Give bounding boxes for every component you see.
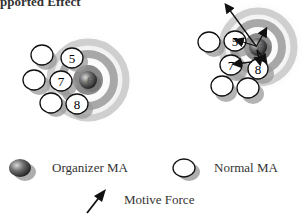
motive-force-legend-icon (87, 189, 106, 213)
svg-text:7: 7 (228, 58, 235, 73)
normal-legend-icon (173, 159, 200, 181)
agent-5: 5 (61, 48, 83, 68)
svg-text:7: 7 (58, 74, 65, 89)
normal-legend-label: Normal MA (214, 160, 278, 176)
agent-7: 7 (50, 71, 72, 91)
agent-blank-3 (237, 78, 259, 98)
agent-blank-2 (23, 70, 45, 90)
svg-text:8: 8 (255, 62, 262, 77)
agent-7: 7 (220, 55, 242, 75)
svg-text:5: 5 (69, 51, 76, 66)
organizer-legend-icon (9, 159, 36, 181)
agent-blank-3 (40, 93, 62, 113)
svg-text:6: 6 (87, 74, 93, 88)
agent-8: 8 (66, 94, 88, 114)
agent-blank-1 (198, 32, 220, 52)
motive-force-legend-label: Motive Force (124, 192, 194, 208)
svg-text:5: 5 (232, 34, 239, 49)
agent-blank-1 (31, 45, 53, 65)
diagram-canvas: 5 7 6 8 (0, 0, 305, 219)
panel-after: 5 6 7 8 (198, 0, 305, 104)
agent-5: 5 (224, 31, 246, 51)
panel-before: 5 7 6 8 (23, 32, 136, 128)
agent-blank-2 (211, 76, 233, 96)
svg-text:8: 8 (74, 97, 81, 112)
organizer-legend-label: Organizer MA (52, 160, 128, 176)
